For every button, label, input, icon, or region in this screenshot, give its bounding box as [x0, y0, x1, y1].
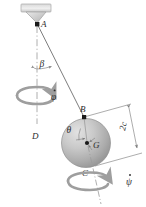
dimension-2c-label: 2c: [117, 121, 129, 131]
point-b-marker: [82, 115, 86, 119]
angle-theta-label: θ: [67, 125, 72, 135]
phi-dot-label-group: φ: [51, 89, 56, 102]
phi-dot-overdot: [54, 89, 56, 91]
diagram-canvas: β A φ D: [0, 0, 146, 207]
spin-phi-label: φ: [51, 92, 56, 102]
spin-psi-label: ψ: [126, 177, 133, 187]
precession-arrow-phi-dot: [17, 87, 53, 104]
point-b-label: B: [80, 104, 86, 114]
point-d-label: D: [31, 131, 39, 141]
psi-dot-label-group: ψ: [126, 174, 133, 187]
point-a-marker: [35, 22, 39, 26]
ceiling-plate: [21, 4, 51, 12]
mechanics-diagram-figure: β A φ D: [0, 0, 146, 207]
point-a-label: A: [40, 19, 47, 29]
psi-dot-overdot: [129, 174, 131, 176]
angle-beta-label: β: [39, 59, 45, 69]
dimension-2c-line: [129, 108, 137, 148]
point-g-label: G: [93, 140, 100, 150]
